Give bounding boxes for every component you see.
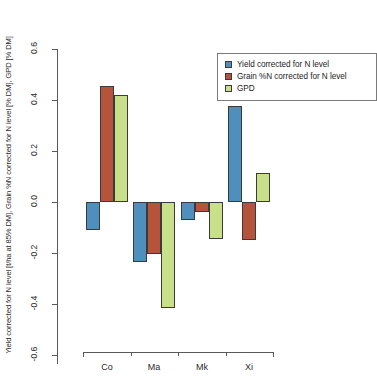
y-axis-tick-label: -0.6 [29, 339, 39, 369]
y-axis-tick-label: -0.2 [29, 237, 39, 267]
x-axis-category-label-co: Co [87, 362, 127, 372]
legend-swatch-gpd [225, 85, 232, 92]
x-axis-tick [226, 352, 227, 356]
legend-item-gpd: GPD [225, 83, 370, 94]
legend-item-yield: Yield corrected for N level [225, 59, 370, 70]
bar [147, 202, 161, 254]
legend-swatch-yield [225, 61, 232, 68]
bar [100, 86, 114, 202]
bar [256, 173, 270, 202]
y-axis-tick [52, 355, 57, 356]
x-axis-tick [178, 352, 179, 356]
legend-label-grain-n: Grain %N corrected for N level [237, 72, 347, 81]
y-axis-tick [52, 253, 57, 254]
bar [161, 202, 175, 308]
legend-swatch-grain-n [225, 73, 232, 80]
bar [228, 106, 242, 202]
bar [242, 202, 256, 240]
x-axis-tick [131, 352, 132, 356]
legend-label-gpd: GPD [237, 84, 255, 93]
x-axis-category-label-xi: Xi [229, 362, 269, 372]
y-axis-tick-label: -0.4 [29, 288, 39, 318]
bar [195, 202, 209, 212]
bar [181, 202, 195, 220]
y-axis-tick [52, 49, 57, 50]
x-axis-category-label-ma: Ma [134, 362, 174, 372]
y-axis-tick [52, 151, 57, 152]
bar [114, 95, 128, 202]
bar [133, 202, 147, 262]
y-axis-tick-label: 0.4 [29, 84, 39, 114]
y-axis-tick [52, 100, 57, 101]
bar [86, 202, 100, 230]
y-axis-tick-label: 0.0 [29, 186, 39, 216]
y-axis-tick [52, 304, 57, 305]
legend: Yield corrected for N level Grain %N cor… [217, 53, 377, 101]
x-axis-cap [273, 352, 274, 357]
y-axis-tick-label: 0.2 [29, 135, 39, 165]
legend-label-yield: Yield corrected for N level [237, 60, 329, 69]
x-axis-category-label-mk: Mk [182, 362, 222, 372]
bar [209, 202, 223, 239]
y-axis-line [57, 49, 58, 364]
x-axis-cap [83, 352, 84, 357]
y-axis-tick-label: 0.6 [29, 33, 39, 63]
y-axis-tick [52, 202, 57, 203]
legend-item-grain-n: Grain %N corrected for N level [225, 71, 370, 82]
